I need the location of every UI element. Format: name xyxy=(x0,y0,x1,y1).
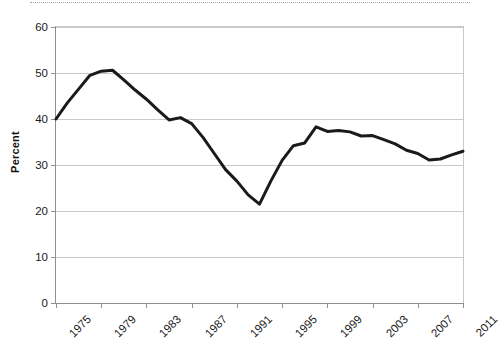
plot-area: 0102030405060 19751979198319871991199519… xyxy=(55,26,464,304)
y-axis-title: Percent xyxy=(9,122,21,182)
x-tick-label-1999: 1999 xyxy=(341,310,368,337)
x-tick-mark-1979 xyxy=(101,303,102,308)
x-tick-mark-1975 xyxy=(56,303,57,308)
x-tick-mark-2003 xyxy=(373,303,374,308)
x-tick-label-2003: 2003 xyxy=(386,310,413,337)
y-tick-label-60: 60 xyxy=(35,21,48,33)
x-tick-mark-1991 xyxy=(237,303,238,308)
x-tick-label-1995: 1995 xyxy=(296,310,323,337)
x-tick-mark-1999 xyxy=(327,303,328,308)
x-tick-label-2007: 2007 xyxy=(431,310,458,337)
x-tick-label-1979: 1979 xyxy=(115,310,142,337)
x-tick-mark-2007 xyxy=(418,303,419,308)
y-tick-label-30: 30 xyxy=(35,159,48,171)
x-tick-label-1987: 1987 xyxy=(205,310,232,337)
y-tick-label-10: 10 xyxy=(35,251,48,263)
x-tick-mark-1995 xyxy=(282,303,283,308)
y-tick-label-0: 0 xyxy=(42,297,48,309)
x-tick-label-1975: 1975 xyxy=(69,310,96,337)
top-dotted-rule xyxy=(30,2,470,3)
series-line-chart xyxy=(56,27,463,303)
y-tick-label-50: 50 xyxy=(35,67,48,79)
y-tick-label-20: 20 xyxy=(35,205,48,217)
x-tick-label-2011: 2011 xyxy=(476,310,502,336)
x-tick-label-1991: 1991 xyxy=(250,310,277,337)
y-tick-label-40: 40 xyxy=(35,113,48,125)
x-tick-mark-1987 xyxy=(192,303,193,308)
x-tick-mark-1983 xyxy=(146,303,147,308)
series-line-percent xyxy=(56,70,463,204)
x-tick-label-1983: 1983 xyxy=(160,310,187,337)
x-tick-mark-2011 xyxy=(463,303,464,308)
